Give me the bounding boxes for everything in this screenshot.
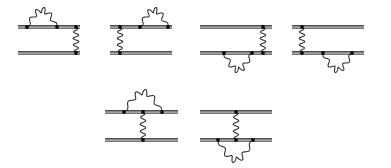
diagram-4-vertex-1 <box>300 25 304 29</box>
diagram-6 <box>200 110 272 162</box>
diagram-3-vertex-3 <box>250 51 254 55</box>
diagram-5-vertex-2 <box>141 110 145 114</box>
diagram-2-self-energy-photon <box>140 8 168 27</box>
diagram-3 <box>200 25 272 72</box>
diagram-2-vertex-4 <box>118 51 122 55</box>
diagram-4-vertex-3 <box>321 51 325 55</box>
diagram-1 <box>18 8 80 55</box>
diagram-5 <box>105 90 178 142</box>
diagram-2-vertex-1 <box>118 25 122 29</box>
diagram-4-exchange-photon <box>299 27 305 53</box>
feynman-diagram-figure <box>0 0 391 168</box>
diagram-3-exchange-photon <box>260 27 266 53</box>
diagram-1-vertex-3 <box>74 25 78 29</box>
diagram-6-exchange-photon <box>233 112 239 140</box>
diagram-6-self-energy-photon <box>218 140 253 162</box>
diagram-3-vertex-2 <box>222 51 226 55</box>
diagram-1-vertex-2 <box>55 25 59 29</box>
feynman-diagram-canvas <box>0 0 391 168</box>
diagram-4 <box>292 25 364 72</box>
diagram-3-vertex-4 <box>261 51 265 55</box>
diagram-5-vertex-4 <box>141 138 145 142</box>
diagram-1-vertex-1 <box>25 25 29 29</box>
diagram-2-vertex-2 <box>138 25 142 29</box>
diagram-5-self-energy-photon <box>124 90 162 112</box>
diagram-6-vertex-1 <box>234 110 238 114</box>
diagram-4-vertex-2 <box>300 51 304 55</box>
diagram-6-vertex-4 <box>251 138 255 142</box>
diagram-1-vertex-4 <box>74 51 78 55</box>
diagram-1-self-energy-photon <box>27 8 57 28</box>
diagram-2-exchange-photon <box>117 27 123 53</box>
diagram-1-exchange-photon <box>73 27 79 53</box>
diagram-6-vertex-3 <box>234 138 238 142</box>
diagram-6-vertex-2 <box>216 138 220 142</box>
diagram-5-exchange-photon <box>140 112 146 140</box>
diagram-2 <box>110 8 172 55</box>
diagram-4-self-energy-photon <box>323 53 352 73</box>
diagram-3-self-energy-photon <box>224 53 252 72</box>
diagram-5-vertex-1 <box>122 110 126 114</box>
diagram-4-vertex-4 <box>350 51 354 55</box>
diagram-5-vertex-3 <box>160 110 164 114</box>
diagram-2-vertex-3 <box>166 25 170 29</box>
diagram-3-vertex-1 <box>261 25 265 29</box>
